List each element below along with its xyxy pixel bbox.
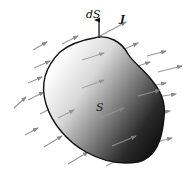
s-label: S <box>96 102 104 113</box>
surface-flux-diagram <box>0 0 192 178</box>
closed-surface-s <box>44 37 165 163</box>
j-label: J <box>120 14 125 24</box>
ds-label: dS <box>86 9 101 20</box>
